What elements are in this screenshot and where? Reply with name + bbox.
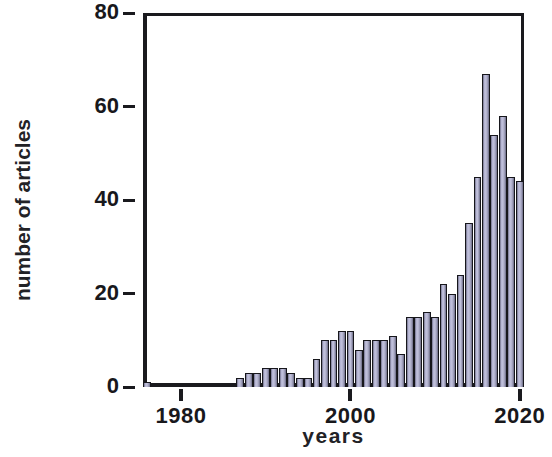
bar bbox=[262, 368, 270, 387]
bar bbox=[313, 359, 321, 387]
y-tick-mark bbox=[123, 199, 135, 202]
bar bbox=[338, 331, 346, 387]
y-axis-label-text: number of articles bbox=[11, 119, 35, 301]
y-tick-mark bbox=[123, 105, 135, 108]
bar bbox=[406, 317, 414, 387]
x-tick-mark bbox=[518, 389, 522, 401]
y-tick-label: 40 bbox=[95, 186, 119, 212]
bar bbox=[499, 116, 507, 387]
y-tick-mark bbox=[123, 12, 135, 15]
bar bbox=[440, 284, 448, 387]
bar bbox=[143, 382, 151, 387]
y-tick-mark bbox=[123, 386, 135, 389]
bar bbox=[490, 135, 498, 387]
y-tick-label: 80 bbox=[95, 0, 119, 25]
x-tick-mark bbox=[179, 389, 183, 401]
bars-layer bbox=[143, 13, 524, 387]
y-tick-label: 60 bbox=[95, 93, 119, 119]
bar bbox=[474, 177, 482, 387]
bar bbox=[279, 368, 287, 387]
bar bbox=[372, 340, 380, 387]
bar bbox=[253, 373, 261, 387]
bar bbox=[380, 340, 388, 387]
x-axis-label: years bbox=[143, 424, 524, 448]
y-tick-label: 0 bbox=[107, 373, 119, 399]
bar bbox=[296, 378, 304, 387]
bar bbox=[287, 373, 295, 387]
bar bbox=[457, 275, 465, 387]
bar bbox=[321, 340, 329, 387]
bar bbox=[245, 373, 253, 387]
bar bbox=[516, 181, 524, 387]
bar bbox=[397, 354, 405, 387]
x-tick-mark bbox=[348, 389, 352, 401]
bar bbox=[389, 336, 397, 387]
bar bbox=[507, 177, 515, 387]
bar bbox=[304, 378, 312, 387]
bar bbox=[236, 378, 244, 387]
bar bbox=[270, 368, 278, 387]
bar bbox=[414, 317, 422, 387]
bar bbox=[465, 223, 473, 387]
bar bbox=[330, 340, 338, 387]
bar bbox=[431, 317, 439, 387]
y-axis-label: number of articles bbox=[0, 0, 46, 420]
bar bbox=[482, 74, 490, 387]
bar bbox=[363, 340, 371, 387]
bar bbox=[347, 331, 355, 387]
bar bbox=[423, 312, 431, 387]
y-tick-label: 20 bbox=[95, 280, 119, 306]
bar bbox=[448, 294, 456, 388]
chart-figure: number of articles 020406080 19802000202… bbox=[0, 0, 552, 457]
y-tick-mark bbox=[123, 292, 135, 295]
bar bbox=[355, 350, 363, 387]
